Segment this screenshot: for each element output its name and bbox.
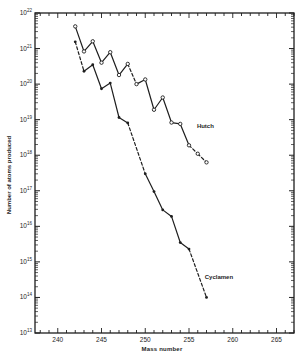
hutch-line-segment (180, 124, 189, 145)
cyclamen-data-point (118, 116, 121, 119)
y-tick-label: 1014 (20, 292, 33, 300)
hutch-line-segment (128, 64, 137, 84)
hutch-data-point (152, 108, 155, 111)
cyclamen-line-segment (84, 65, 93, 71)
hutch-series-label: Hutch (197, 123, 214, 129)
cyclamen-line-segment (172, 216, 181, 242)
cyclamen-line-segment (180, 243, 189, 249)
hutch-data-point (82, 50, 85, 53)
x-tick-label: 245 (96, 336, 107, 343)
cyclamen-series-label: Cyclamen (205, 274, 234, 280)
cyclamen-line-segment (128, 123, 146, 174)
hutch-line-segment (110, 52, 119, 75)
x-tick-label: 250 (140, 336, 151, 343)
cyclamen-data-point (205, 296, 208, 299)
y-tick-label: 1015 (20, 257, 33, 265)
hutch-data-point (91, 40, 94, 43)
hutch-data-point (74, 25, 77, 28)
cyclamen-data-point (74, 40, 77, 43)
hutch-line-segment (154, 98, 163, 110)
cyclamen-line-segment (102, 83, 111, 89)
x-tick-label: 260 (227, 336, 238, 343)
cyclamen-data-point (179, 241, 182, 244)
plot-frame (35, 13, 294, 333)
x-tick-label: 265 (271, 336, 282, 343)
cyclamen-line-segment (93, 65, 102, 89)
hutch-line-segment (145, 79, 154, 109)
y-tick-label: 1020 (20, 79, 33, 87)
cyclamen-data-point (161, 208, 164, 211)
hutch-data-point (126, 62, 129, 65)
hutch-data-point (161, 96, 164, 99)
hutch-data-point (205, 161, 208, 164)
cyclamen-data-point (170, 215, 173, 218)
cyclamen-data-point (109, 82, 112, 85)
hutch-data-point (196, 152, 199, 155)
hutch-data-point (109, 50, 112, 53)
cyclamen-line-segment (110, 83, 119, 117)
cyclamen-data-point (144, 172, 147, 175)
hutch-data-point (179, 122, 182, 125)
y-axis-label: Number of atoms produced (6, 120, 12, 230)
chart-figure: 2402452502552602651013101410151016101710… (0, 0, 300, 356)
cyclamen-data-point (83, 70, 86, 73)
hutch-line-segment (163, 98, 172, 123)
hutch-data-point (187, 144, 190, 147)
cyclamen-line-segment (145, 174, 154, 192)
hutch-data-point (117, 73, 120, 76)
y-tick-label: 1018 (20, 150, 33, 158)
plot-area: 2402452502552602651013101410151016101710… (0, 0, 300, 356)
y-tick-label: 1021 (20, 44, 33, 52)
cyclamen-line-segment (154, 192, 163, 210)
cyclamen-data-point (100, 87, 103, 90)
hutch-data-point (100, 61, 103, 64)
cyclamen-data-point (188, 248, 191, 251)
cyclamen-line-segment (163, 210, 172, 217)
y-tick-label: 1016 (20, 221, 33, 229)
x-tick-label: 240 (52, 336, 63, 343)
y-tick-label: 1013 (20, 328, 33, 336)
y-tick-label: 1017 (20, 186, 33, 194)
y-tick-label: 1022 (20, 8, 33, 16)
y-tick-label: 1019 (20, 115, 33, 123)
cyclamen-line-segment (119, 118, 128, 123)
hutch-data-point (144, 78, 147, 81)
x-tick-label: 255 (184, 336, 195, 343)
cyclamen-data-point (91, 63, 94, 66)
cyclamen-data-point (153, 190, 156, 193)
hutch-line-segment (93, 41, 102, 62)
cyclamen-data-point (126, 122, 129, 125)
x-axis-label: Mass number (130, 346, 194, 352)
hutch-data-point (170, 121, 173, 124)
hutch-data-point (135, 82, 138, 85)
